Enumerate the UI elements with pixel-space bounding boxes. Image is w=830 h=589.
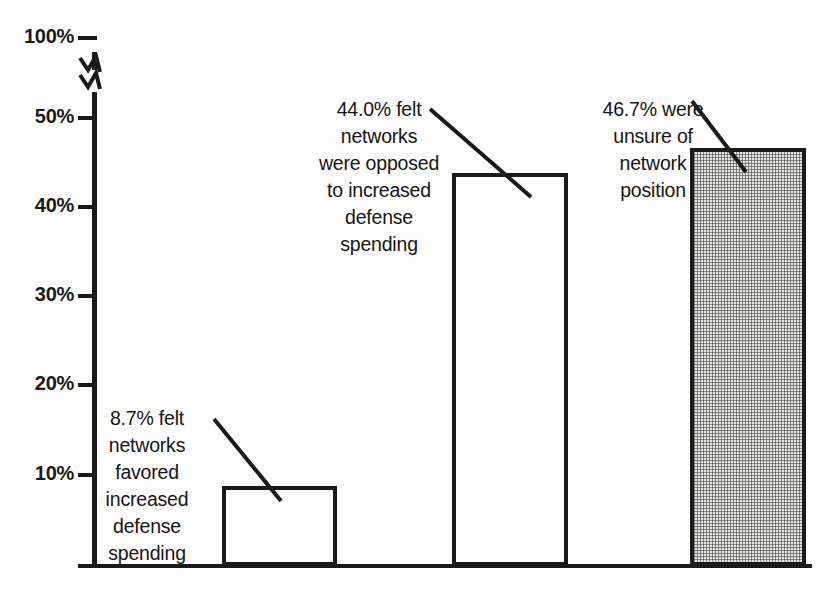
bar-chart-figure: 100% 50% 40% 30% 20% 10% 8.7% felt netwo… bbox=[0, 0, 830, 589]
leader-line-unsure bbox=[0, 0, 830, 589]
